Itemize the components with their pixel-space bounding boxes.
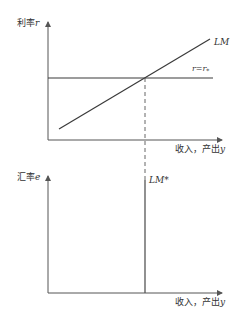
bottom-panel [48, 176, 222, 293]
bottom-x-axis-label: 收入，产出y [175, 298, 225, 307]
lm-curve [59, 39, 210, 129]
lm-star-label: LM* [149, 176, 169, 185]
bottom-y-axis-label: 汇率e [17, 173, 40, 182]
lm-curve-label: LM [214, 38, 229, 47]
diagram-canvas [0, 0, 242, 322]
world-rate-label: r=r* [192, 65, 209, 74]
top-y-axis-label: 利率r [17, 19, 39, 28]
top-x-axis-label: 收入，产出y [175, 145, 225, 154]
top-panel [48, 22, 222, 180]
